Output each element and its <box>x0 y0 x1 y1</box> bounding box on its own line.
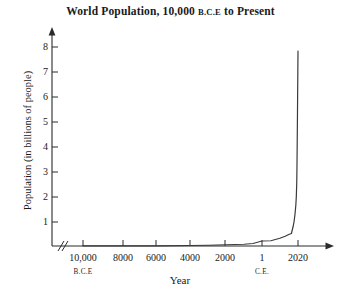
population-curve <box>83 51 298 246</box>
chart-figure: World Population, 10,000 B.C.E to Presen… <box>0 0 341 298</box>
y-axis-ticks <box>52 47 58 222</box>
y-axis-arrowhead <box>49 27 56 36</box>
x-axis-arrowhead <box>326 243 335 250</box>
chart-plot-area <box>0 0 341 298</box>
